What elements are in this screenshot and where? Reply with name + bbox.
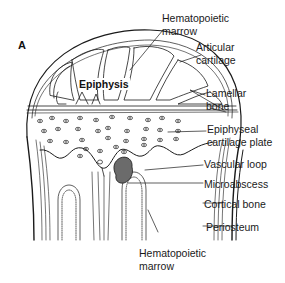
label-hematopoietic-marrow-top: Hematopoietic marrow: [162, 12, 229, 37]
label-microabscess: Microabscess: [204, 178, 268, 191]
label-lamellar-bone: Lamellar bone: [206, 87, 246, 112]
label-hematopoietic-marrow-bottom: Hematopoietic marrow: [139, 247, 206, 272]
epiphysis-label: Epiphysis: [78, 78, 130, 90]
label-articular-cartilage: Articular cartilage: [196, 41, 236, 66]
label-epiphyseal-cartilage-plate: Epiphyseal cartilage plate: [207, 123, 272, 148]
label-cortical-bone: Cortical bone: [204, 198, 266, 211]
vascular-loops: [58, 172, 146, 240]
panel-letter: A: [18, 39, 26, 51]
cortical-bone-left: [27, 137, 34, 240]
chondrocytes: [38, 115, 181, 164]
label-periosteum: Periosteum: [206, 221, 259, 234]
microabscess-shape: [114, 157, 133, 183]
label-vascular-loop: Vascular loop: [204, 158, 267, 171]
